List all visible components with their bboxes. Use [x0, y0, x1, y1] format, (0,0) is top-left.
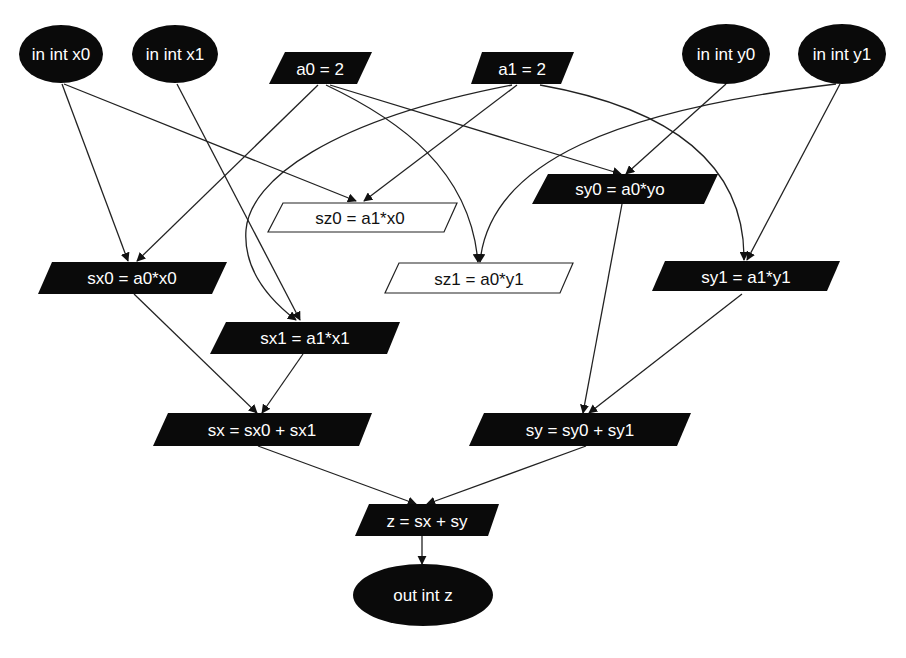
node-label: sy0 = a0*yo: [575, 180, 664, 199]
node-label: sy = sy0 + sy1: [526, 421, 635, 440]
node-sx0[interactable]: sx0 = a0*x0: [38, 262, 227, 294]
edge-a0-sx0: [137, 85, 318, 261]
node-label: a0 = 2: [296, 60, 344, 79]
node-label: sx1 = a1*x1: [260, 329, 349, 348]
node-sy0[interactable]: sy0 = a0*yo: [532, 174, 718, 204]
edge-sy1-sy: [589, 294, 742, 413]
node-label: sz1 = a0*y1: [434, 270, 523, 289]
node-sy1[interactable]: sy1 = a1*y1: [652, 261, 840, 291]
edge-a1-sy1: [540, 85, 744, 260]
dataflow-graph: in int x0 in int x1 a0 = 2 a1 = 2 in int…: [0, 0, 906, 658]
edge-y1-sz1: [480, 84, 836, 262]
edge-sx-z: [258, 446, 416, 504]
node-sx1[interactable]: sx1 = a1*x1: [210, 322, 400, 354]
node-label: sy1 = a1*y1: [701, 268, 790, 287]
node-sy[interactable]: sy = sy0 + sy1: [469, 413, 691, 446]
node-input-x1[interactable]: in int x1: [132, 25, 218, 83]
edge-y1-sy1: [747, 84, 840, 260]
node-label: in int y0: [697, 45, 756, 64]
node-const-a1[interactable]: a1 = 2: [471, 52, 574, 84]
node-input-y0[interactable]: in int y0: [682, 24, 770, 84]
node-label: sx = sx0 + sx1: [208, 421, 317, 440]
node-label: out int z: [393, 586, 453, 605]
node-label: sz0 = a1*x0: [315, 209, 404, 228]
edge-sy0-sy: [583, 204, 622, 413]
node-z[interactable]: z = sx + sy: [355, 504, 499, 536]
node-sz1[interactable]: sz1 = a0*y1: [385, 263, 573, 293]
node-label: z = sx + sy: [386, 512, 468, 531]
node-label: a1 = 2: [498, 60, 546, 79]
node-label: in int x1: [146, 45, 205, 64]
edge-sy-z: [427, 446, 586, 504]
node-sx[interactable]: sx = sx0 + sx1: [153, 413, 372, 446]
edge-y0-sy0: [626, 84, 726, 174]
node-input-y1[interactable]: in int y1: [798, 24, 886, 84]
edge-x0-sx0: [62, 84, 128, 261]
nodes: in int x0 in int x1 a0 = 2 a1 = 2 in int…: [19, 24, 886, 626]
node-sz0[interactable]: sz0 = a1*x0: [268, 203, 457, 232]
node-const-a0[interactable]: a0 = 2: [269, 52, 372, 84]
node-output-z[interactable]: out int z: [353, 564, 493, 626]
edge-sx1-sx: [262, 354, 303, 413]
edge-x0-sz0: [64, 84, 356, 201]
node-label: in int x0: [32, 45, 91, 64]
node-label: sx0 = a0*x0: [87, 269, 176, 288]
node-input-x0[interactable]: in int x0: [19, 25, 103, 83]
edge-a0-sz1: [326, 85, 478, 262]
edges: [62, 84, 840, 564]
edge-a0-sy0: [330, 85, 621, 174]
node-label: in int y1: [813, 45, 872, 64]
